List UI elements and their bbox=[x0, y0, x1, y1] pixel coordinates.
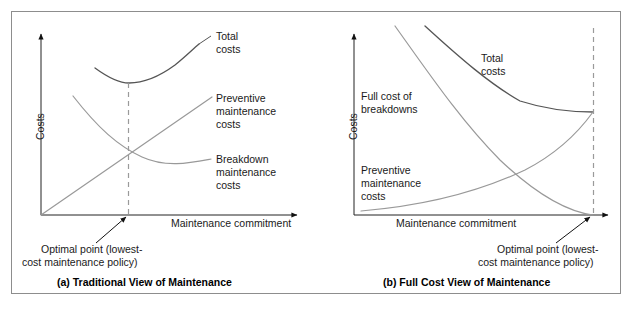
panel-b-caption: (b) Full Cost View of Maintenance bbox=[383, 276, 550, 288]
panel-b-preventive-label-line2: maintenance bbox=[361, 177, 421, 191]
panel-b-full-cost-label-line2: breakdowns bbox=[361, 103, 418, 117]
panel-b-preventive-label-line3: costs bbox=[361, 190, 386, 204]
panel-a-breakdown-label-line2: maintenance bbox=[216, 166, 276, 180]
panel-b-total-costs-label-line1: Total bbox=[481, 52, 503, 66]
panel-b-x-axis-label: Maintenance commitment bbox=[396, 217, 516, 231]
panel-a-total-costs-label-line2: costs bbox=[216, 43, 241, 57]
panel-b-y-axis-label: Costs bbox=[347, 113, 359, 140]
panel-b-optimal-annotation-line1: Optimal point (lowest- bbox=[497, 243, 599, 257]
panel-a-total-costs-label-line1: Total bbox=[216, 30, 238, 44]
panel-a-breakdown-label-line1: Breakdown bbox=[216, 153, 269, 167]
panel-a-breakdown-label-line3: costs bbox=[216, 179, 241, 193]
panel-a-optimal-annotation-line1: Optimal point (lowest- bbox=[41, 243, 143, 257]
panel-a-x-axis-label: Maintenance commitment bbox=[171, 217, 291, 231]
figure-root: Costs Maintenance commitment Total costs… bbox=[0, 0, 633, 311]
panel-a-preventive-label-line2: maintenance bbox=[216, 105, 276, 119]
panel-a-preventive-label-line3: costs bbox=[216, 118, 241, 132]
panel-b-preventive-label-line1: Preventive bbox=[361, 164, 411, 178]
panel-b-optimal-annotation-line2: cost maintenance policy) bbox=[478, 256, 594, 270]
panel-a-preventive-label-line1: Preventive bbox=[216, 92, 266, 106]
panel-b-total-costs-label-line2: costs bbox=[481, 65, 506, 79]
panel-a-y-axis-label: Costs bbox=[34, 113, 46, 140]
panel-b-full-cost-label-line1: Full cost of bbox=[361, 90, 412, 104]
panel-a-optimal-annotation-line2: cost maintenance policy) bbox=[22, 256, 138, 270]
panel-a-caption: (a) Traditional View of Maintenance bbox=[57, 276, 232, 288]
